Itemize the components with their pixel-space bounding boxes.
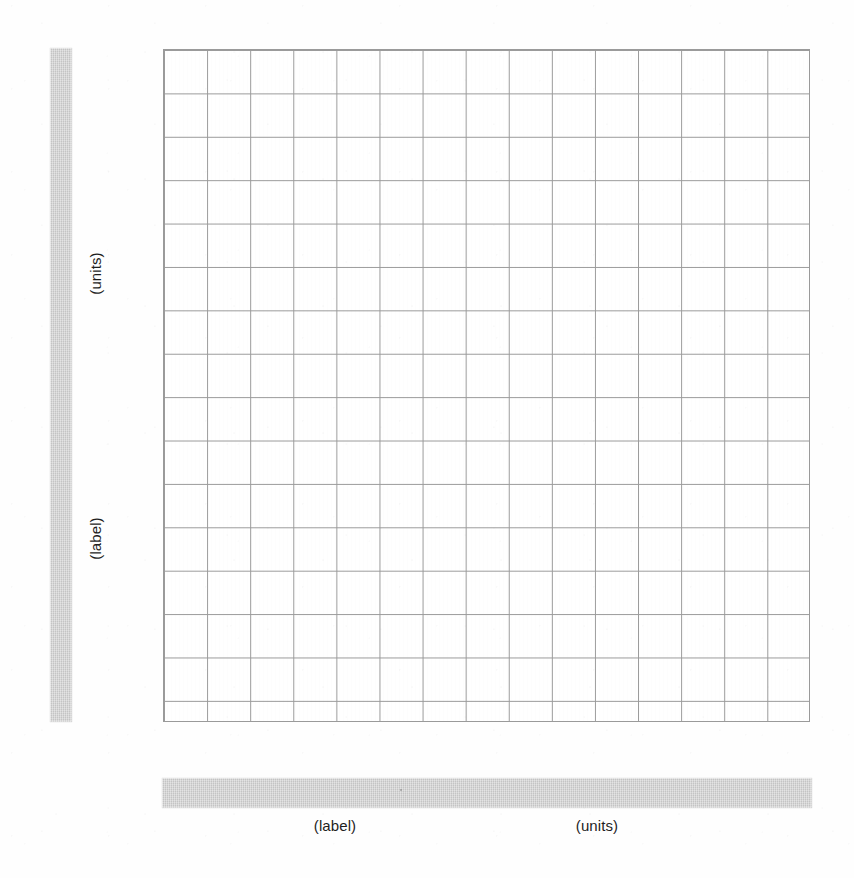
y-axis-label-band xyxy=(50,48,72,722)
x-axis-name-label: (label) xyxy=(255,818,415,833)
y-axis-name-label: (label) xyxy=(88,484,103,594)
y-axis-units-label: (units) xyxy=(88,219,103,329)
plot-grid[interactable] xyxy=(163,49,810,722)
worksheet-page: (units) (label) (label) (units) xyxy=(0,0,854,878)
x-axis-label-band xyxy=(162,778,812,808)
grid-scan-noise xyxy=(164,50,809,721)
x-axis-units-label: (units) xyxy=(517,818,677,833)
scan-artifact-speck xyxy=(400,789,402,791)
